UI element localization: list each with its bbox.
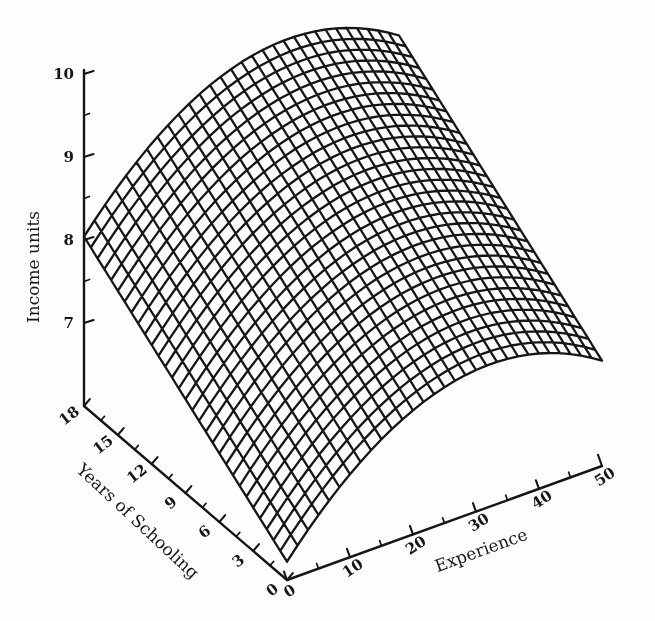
schooling-tick-label: 0 bbox=[263, 579, 282, 600]
experience-minor-tick bbox=[506, 495, 508, 500]
schooling-tick-label: 3 bbox=[229, 550, 248, 571]
schooling-tick bbox=[219, 515, 225, 522]
experience-tick bbox=[536, 480, 539, 488]
experience-minor-tick bbox=[443, 518, 445, 523]
schooling-minor-tick bbox=[135, 445, 139, 449]
experience-minor-tick bbox=[317, 563, 319, 568]
experience-minor-tick bbox=[569, 472, 571, 477]
schooling-tick-label: 18 bbox=[55, 402, 83, 429]
experience-tick bbox=[410, 526, 413, 534]
schooling-minor-tick bbox=[270, 561, 274, 565]
income-tick bbox=[84, 320, 94, 323]
experience-tick bbox=[347, 549, 350, 557]
schooling-minor-tick bbox=[202, 503, 206, 507]
income-tick-label: 8 bbox=[64, 231, 74, 249]
surface-chart: 10987181512963001020304050 bbox=[0, 0, 655, 621]
income-tick bbox=[84, 71, 94, 74]
schooling-tick bbox=[152, 457, 158, 464]
income-axis-ticks: 10987 bbox=[53, 65, 93, 332]
schooling-tick-label: 12 bbox=[123, 460, 151, 487]
earnings-surface-figure: 10987181512963001020304050 Income units … bbox=[0, 0, 655, 621]
schooling-minor-tick bbox=[101, 416, 105, 420]
income-tick-label: 9 bbox=[64, 148, 74, 166]
income-tick-label: 7 bbox=[64, 314, 74, 332]
schooling-tick-label: 9 bbox=[161, 492, 180, 513]
experience-tick-label: 0 bbox=[280, 580, 299, 601]
experience-minor-tick bbox=[380, 541, 382, 546]
schooling-tick bbox=[253, 544, 259, 551]
schooling-tick bbox=[186, 486, 192, 493]
schooling-minor-tick bbox=[169, 474, 173, 478]
income-tick-label: 10 bbox=[53, 65, 74, 83]
income-tick bbox=[84, 154, 94, 157]
schooling-tick-label: 6 bbox=[195, 521, 214, 542]
surface-mesh bbox=[84, 28, 602, 562]
schooling-tick bbox=[118, 428, 124, 435]
schooling-tick-label: 15 bbox=[89, 431, 117, 458]
income-axis-label: Income units bbox=[23, 211, 43, 323]
experience-tick bbox=[598, 455, 602, 466]
experience-tick bbox=[473, 503, 476, 511]
schooling-minor-tick bbox=[236, 532, 240, 536]
surface-mesh-lines bbox=[84, 28, 602, 562]
